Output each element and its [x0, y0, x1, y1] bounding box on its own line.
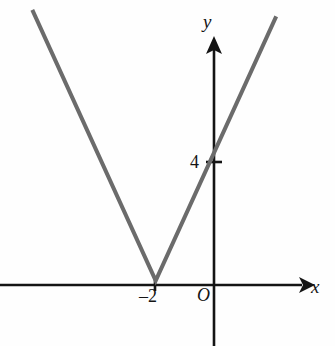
- x-axis-label: x: [311, 277, 319, 296]
- y-tick-label-4: 4: [190, 153, 199, 171]
- graph-curve: [32, 10, 276, 281]
- graph-figure: y x O 4 –2: [0, 0, 335, 346]
- y-axis-label: y: [203, 12, 211, 31]
- x-tick-label-neg2: –2: [139, 287, 157, 305]
- origin-label: O: [197, 286, 210, 304]
- coordinate-plane: [0, 0, 335, 346]
